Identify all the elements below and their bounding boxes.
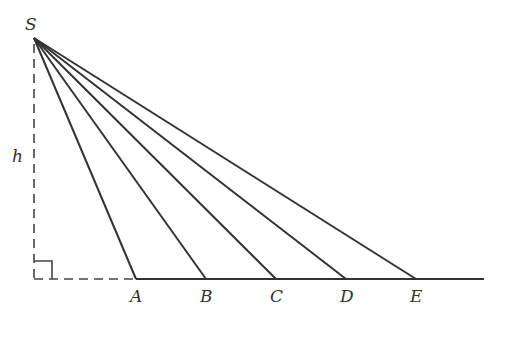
geometry-diagram: S h A B C D E [0, 0, 507, 341]
label-B: B [199, 286, 213, 306]
label-S: S [25, 14, 37, 34]
label-A: A [128, 286, 142, 306]
ray-SE [34, 38, 416, 279]
label-D: D [339, 286, 354, 306]
label-C: C [270, 286, 283, 306]
ray-SC [34, 38, 276, 279]
ray-SD [34, 38, 346, 279]
right-angle-marker [34, 261, 52, 279]
label-h: h [12, 146, 23, 166]
label-E: E [409, 286, 423, 306]
